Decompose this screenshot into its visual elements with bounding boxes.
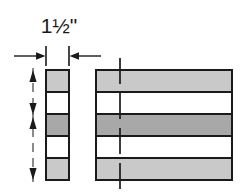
face-band-3 xyxy=(96,114,232,136)
edge-band-3 xyxy=(46,114,69,136)
edge-band-5 xyxy=(46,158,69,180)
edge-band-2 xyxy=(46,92,69,114)
technical-drawing-canvas: 1½" xyxy=(0,0,241,195)
vertical-dash-dot-measure-line xyxy=(29,68,36,182)
face-band-5 xyxy=(96,158,232,180)
measure-arrowhead-up-3 xyxy=(29,117,36,129)
width-dimension-label: 1½" xyxy=(41,14,78,37)
edge-band-4 xyxy=(46,136,69,158)
left-dimension-arrowhead xyxy=(36,52,46,60)
narrow-edge-view-stack xyxy=(46,70,69,180)
measure-arrowhead-up-1 xyxy=(29,70,36,82)
face-band-1 xyxy=(96,70,232,92)
right-dimension-arrowhead xyxy=(70,52,80,60)
edge-band-1 xyxy=(46,70,69,92)
layered-block-dimension-diagram: 1½" xyxy=(0,0,241,195)
face-band-4 xyxy=(96,136,232,158)
wide-face-view-block xyxy=(96,70,232,180)
face-band-2 xyxy=(96,92,232,114)
measure-arrowhead-down-4 xyxy=(29,168,36,180)
measure-arrowhead-down-2 xyxy=(29,103,36,115)
